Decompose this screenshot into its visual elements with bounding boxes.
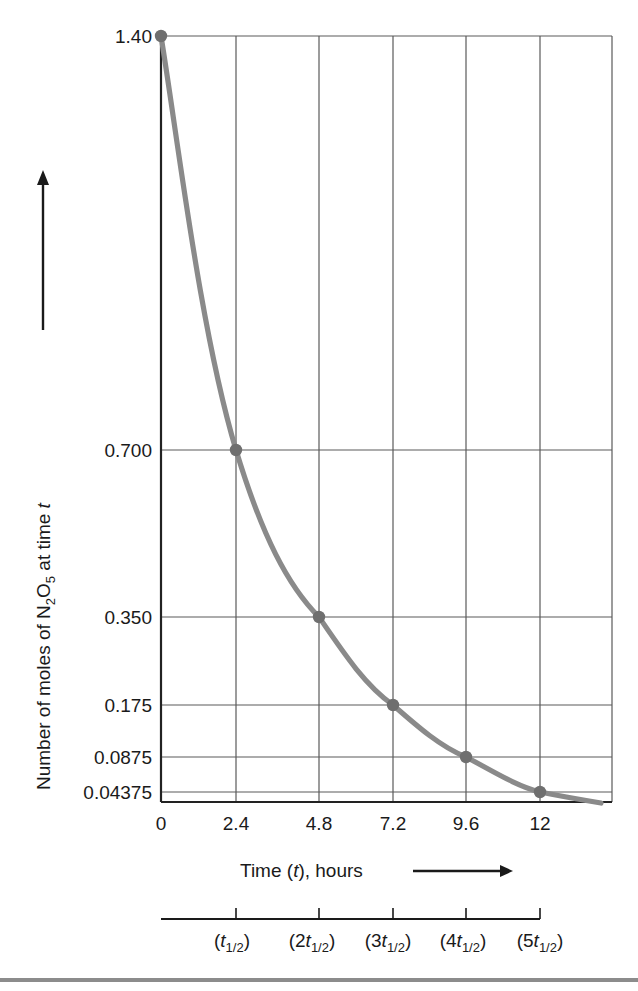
y-tick-labels: 1.40 0.700 0.350 0.175 0.0875 0.04375 [83,26,152,803]
y-axis-title: Number of moles of N2O5 at time t [33,502,58,790]
y-tick-label-1.40: 1.40 [115,26,152,47]
x-axis-title: Time (t), hours [240,860,363,881]
data-point-markers [155,30,546,798]
hl4-open: (4 [440,930,457,951]
y-tick-label-0.175: 0.175 [104,695,152,716]
data-point-4 [460,751,472,763]
hl2-open: (2 [289,930,306,951]
data-point-5 [534,786,546,798]
data-point-0 [155,30,167,42]
hl2-close: ) [329,930,335,951]
hl1-sub: 1/2 [226,940,244,955]
chart-canvas: 1.40 0.700 0.350 0.175 0.0875 0.04375 0 … [0,0,638,991]
decay-chart-figure: 1.40 0.700 0.350 0.175 0.0875 0.04375 0 … [0,0,638,991]
hl3-open: (3 [365,930,382,951]
x-title-suffix: ), hours [298,860,362,881]
half-life-scale: (t1/2) (2t1/2) (3t1/2) (4t1/2) (5t1/2) [161,908,563,955]
data-point-2 [313,611,325,623]
hl5-close: ) [557,930,563,951]
hl1-close: ) [244,930,250,951]
y-tick-label-0.350: 0.350 [104,607,152,628]
x-tick-label-12: 12 [529,813,550,834]
x-tick-label-9.6: 9.6 [453,813,479,834]
y-axis-arrow-head-icon [37,170,49,185]
y-tick-label-0.04375: 0.04375 [83,782,152,803]
hl4-close: ) [480,930,486,951]
hl3-sub: 1/2 [387,940,405,955]
y-title-prefix: Number of moles of N [33,605,54,790]
hl2-sub: 1/2 [311,940,329,955]
y-title-subscript-5: 5 [43,576,58,583]
y-title-suffix: at time [33,508,54,576]
x-title-prefix: Time ( [240,860,294,881]
data-point-3 [387,699,399,711]
y-tick-label-0.700: 0.700 [104,440,152,461]
hl5-sub: 1/2 [539,940,557,955]
x-tick-label-2.4: 2.4 [223,813,250,834]
half-life-label-5: (5t1/2) [517,930,564,955]
y-tick-label-0.0875: 0.0875 [94,747,152,768]
y-axis-title-group: Number of moles of N2O5 at time t [33,170,58,790]
y-title-middle: O [33,583,54,598]
y-title-subscript-2: 2 [43,598,58,605]
half-life-label-1: (t1/2) [214,930,250,955]
hl4-sub: 1/2 [462,940,480,955]
half-life-label-2: (2t1/2) [289,930,336,955]
decay-curve-group [161,36,601,803]
half-life-label-3: (3t1/2) [365,930,412,955]
x-tick-label-4.8: 4.8 [306,813,332,834]
hl5-open: (5 [517,930,534,951]
decay-curve [161,36,601,803]
x-axis-title-group: Time (t), hours [240,860,513,881]
data-point-1 [230,444,242,456]
y-title-variable: t [33,502,54,508]
x-tick-label-7.2: 7.2 [380,813,406,834]
x-axis-arrow-head-icon [500,865,513,877]
x-tick-label-0: 0 [156,813,167,834]
x-tick-labels: 0 2.4 4.8 7.2 9.6 12 [156,813,551,834]
half-life-label-4: (4t1/2) [440,930,487,955]
bottom-divider [0,978,638,982]
hl3-close: ) [405,930,411,951]
